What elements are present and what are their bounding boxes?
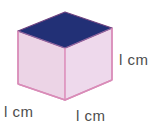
cube-diagram: l cm l cm l cm xyxy=(0,0,166,128)
dimension-label-height: l cm xyxy=(119,52,149,67)
dimension-label-depth: l cm xyxy=(4,104,34,119)
dimension-label-width: l cm xyxy=(76,108,106,123)
